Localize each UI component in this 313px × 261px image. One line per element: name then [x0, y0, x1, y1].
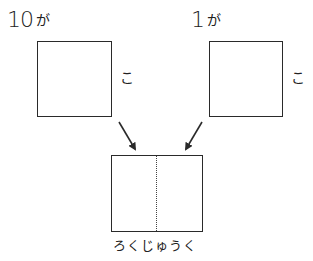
place-value-divider — [156, 156, 157, 231]
tens-particle: が — [36, 12, 50, 28]
tens-counter-label: こ — [120, 71, 134, 85]
left-arrow-icon — [119, 122, 135, 149]
tens-label: 10が — [7, 9, 50, 31]
number-reading: ろくじゅうく — [113, 239, 197, 252]
number-box[interactable] — [111, 155, 203, 232]
ones-label: 1が — [191, 9, 221, 31]
right-arrow-icon — [186, 122, 202, 149]
tens-number: 10 — [7, 7, 33, 32]
ones-answer-box[interactable] — [209, 41, 283, 117]
ones-counter-label: こ — [291, 71, 305, 85]
ones-number: 1 — [191, 7, 204, 32]
ones-particle: が — [207, 12, 221, 28]
tens-answer-box[interactable] — [37, 41, 112, 117]
